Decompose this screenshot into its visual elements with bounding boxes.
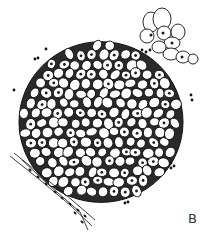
cell-nucleus — [41, 141, 44, 144]
cell-nucleus — [162, 32, 165, 35]
cell — [188, 54, 198, 64]
cell-nucleus — [117, 64, 120, 67]
cell-nucleus — [73, 141, 76, 144]
panel-label: B — [188, 212, 197, 225]
cell-nucleus — [131, 179, 134, 182]
cell-nucleus — [90, 73, 93, 76]
cell-nucleus — [80, 54, 83, 57]
cell-nucleus — [106, 64, 109, 67]
cell — [154, 147, 164, 157]
cell-nucleus — [41, 103, 44, 106]
cell-nucleus — [150, 34, 153, 37]
granule — [170, 167, 173, 170]
cell-nucleus — [100, 171, 103, 174]
cell-nucleus — [52, 82, 55, 85]
granule — [37, 57, 40, 60]
cell-nucleus — [152, 160, 155, 163]
cell-nucleus — [152, 141, 155, 144]
granule — [13, 89, 16, 92]
cell — [70, 100, 80, 108]
cell-nucleus — [107, 83, 110, 86]
granule — [124, 202, 127, 205]
cell-nucleus — [136, 132, 139, 135]
granule — [127, 201, 130, 204]
granule — [170, 162, 173, 165]
cell-nucleus — [171, 42, 174, 45]
cell-nucleus — [113, 54, 116, 57]
cell-nucleus — [124, 191, 127, 194]
cell-nucleus — [96, 141, 99, 144]
cell-nucleus — [63, 63, 66, 66]
cell-nucleus — [29, 123, 32, 126]
cell-nucleus — [125, 151, 128, 154]
cell-nucleus — [47, 74, 50, 77]
cell-nucleus — [141, 161, 144, 164]
granule — [191, 99, 194, 102]
granule — [145, 51, 148, 54]
granule — [45, 48, 48, 51]
cell-nucleus — [84, 181, 87, 184]
cell-nucleus — [181, 56, 184, 59]
cell-nucleus — [125, 74, 128, 77]
granule — [141, 49, 144, 52]
cell-nucleus — [101, 113, 104, 116]
cell-nucleus — [134, 54, 137, 57]
cell-nucleus — [136, 112, 139, 115]
granule — [34, 58, 37, 61]
cell-nucleus — [90, 53, 93, 56]
granule — [149, 49, 152, 52]
cell-nucleus — [69, 131, 72, 134]
cell-nucleus — [57, 91, 60, 94]
cell-nucleus — [113, 190, 116, 193]
cell-nucleus — [135, 190, 138, 193]
cell — [149, 117, 159, 126]
cell-cluster-illustration — [0, 0, 213, 241]
cell-nucleus — [134, 72, 137, 75]
cell-nucleus — [134, 151, 137, 154]
cell-nucleus — [50, 63, 53, 66]
granule — [190, 94, 193, 97]
cell-nucleus — [108, 159, 111, 162]
cell-nucleus — [158, 74, 161, 77]
cell-nucleus — [123, 131, 126, 134]
cell-nucleus — [168, 92, 171, 95]
cell-nucleus — [123, 171, 126, 174]
cell-nucleus — [164, 103, 167, 106]
cell-nucleus — [96, 179, 99, 182]
cell-nucleus — [117, 121, 120, 124]
granule — [173, 165, 176, 168]
cell — [142, 70, 152, 80]
cell-nucleus — [163, 122, 166, 125]
cell-nucleus — [79, 73, 82, 76]
cell-nucleus — [56, 112, 59, 115]
cell-nucleus — [30, 142, 33, 145]
cell-nucleus — [73, 161, 76, 164]
cell-nucleus — [79, 111, 82, 114]
cell-nucleus — [45, 92, 48, 95]
cell-nucleus — [153, 82, 156, 85]
cell-nucleus — [142, 179, 145, 182]
